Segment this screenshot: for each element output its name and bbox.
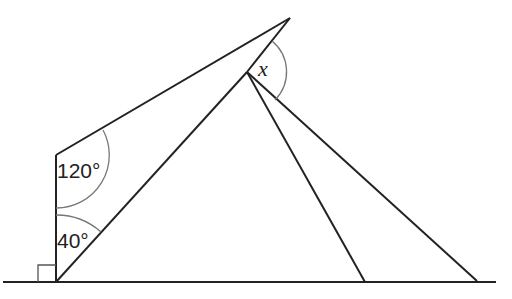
right-angle-marker (38, 265, 56, 282)
angle-label-40: 40° (57, 229, 89, 252)
middle-line (247, 72, 365, 282)
geometry-diagram: 120° 40° x (0, 0, 512, 299)
angle-label-x: x (257, 56, 268, 81)
arc-x (272, 41, 287, 100)
apex-segment (247, 18, 290, 72)
angle-label-120: 120° (57, 159, 100, 182)
right-line (247, 72, 477, 281)
